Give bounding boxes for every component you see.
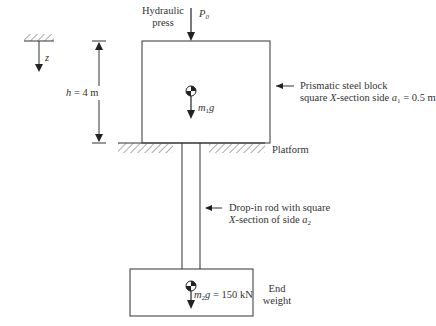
z-axis-label: z <box>45 52 49 64</box>
platform <box>118 143 265 153</box>
platform-label: Platform <box>272 144 309 156</box>
end-weight-label: End weight <box>260 283 294 307</box>
z-axis-reference <box>24 34 54 72</box>
drop-in-rod <box>182 143 200 269</box>
height-label: h = 4 m <box>66 87 98 99</box>
rod-description: Drop-in rod with square X-section of sid… <box>229 202 330 226</box>
end-weight-value: m2g = 150 kN <box>194 289 253 301</box>
steel-block <box>142 41 270 143</box>
press-label: Hydraulic press <box>141 5 185 29</box>
z-arrow-icon <box>35 64 43 72</box>
press-force-label: P0 <box>199 8 209 20</box>
centroid-icon-block <box>186 86 196 119</box>
block-description: Prismatic steel block square X-section s… <box>300 80 436 104</box>
press-force-arrow <box>187 8 195 41</box>
block-weight-label: m1g <box>198 102 214 114</box>
